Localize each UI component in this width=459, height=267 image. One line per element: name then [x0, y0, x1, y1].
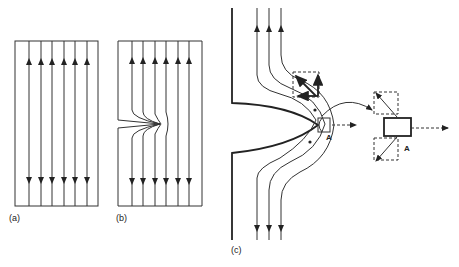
panel-c-label: (c): [231, 245, 242, 255]
panel-b-field: [118, 41, 202, 206]
detail-a-label: A: [404, 144, 410, 153]
panel-c-field: [232, 8, 372, 240]
panel-a-field: [15, 41, 98, 206]
panel-a-label: (a): [9, 213, 20, 223]
panel-b-label: (b): [116, 213, 127, 223]
diagram-canvas: [0, 0, 459, 267]
element-a-label: A: [326, 133, 332, 142]
detail-a-element: [374, 92, 448, 161]
